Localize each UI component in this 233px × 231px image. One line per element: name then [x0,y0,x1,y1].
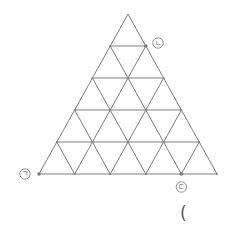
label-nieun: ㄴ [155,39,161,47]
lattice-point [181,109,183,111]
lattice-point [92,77,94,79]
lattice-point [92,141,94,143]
lattice-point [109,45,111,47]
left-parallel-line [39,14,128,174]
point-giyeok-marker [37,172,41,176]
lattice-point [127,77,129,79]
right-parallel-line [57,142,75,174]
lattice-point [127,141,129,143]
lattice-point [198,141,200,143]
right-parallel-line [128,14,217,174]
lattice-point [56,141,58,143]
left-parallel-line [110,78,163,174]
label-digeut: ㄷ [178,183,184,191]
point-nieun-marker [144,44,148,48]
point-labels: ㄱㄴㄷ [20,38,187,192]
lattice-point [163,77,165,79]
answer-bracket: ( [180,205,187,222]
triangle-grid-diagram: ㄱㄴㄷ [0,0,233,231]
lattice-point [74,173,76,175]
point-digeut-marker [180,172,184,176]
right-parallel-line [92,78,145,174]
left-parallel-line [181,142,199,174]
lattice-point [145,109,147,111]
lattice-point [163,141,165,143]
lattice-point [74,109,76,111]
lattice-point [109,173,111,175]
lattice-point [216,173,218,175]
lattice-point [109,109,111,111]
grid-lines [39,14,217,174]
label-giyeok: ㄱ [22,170,28,178]
lattice-point [145,173,147,175]
